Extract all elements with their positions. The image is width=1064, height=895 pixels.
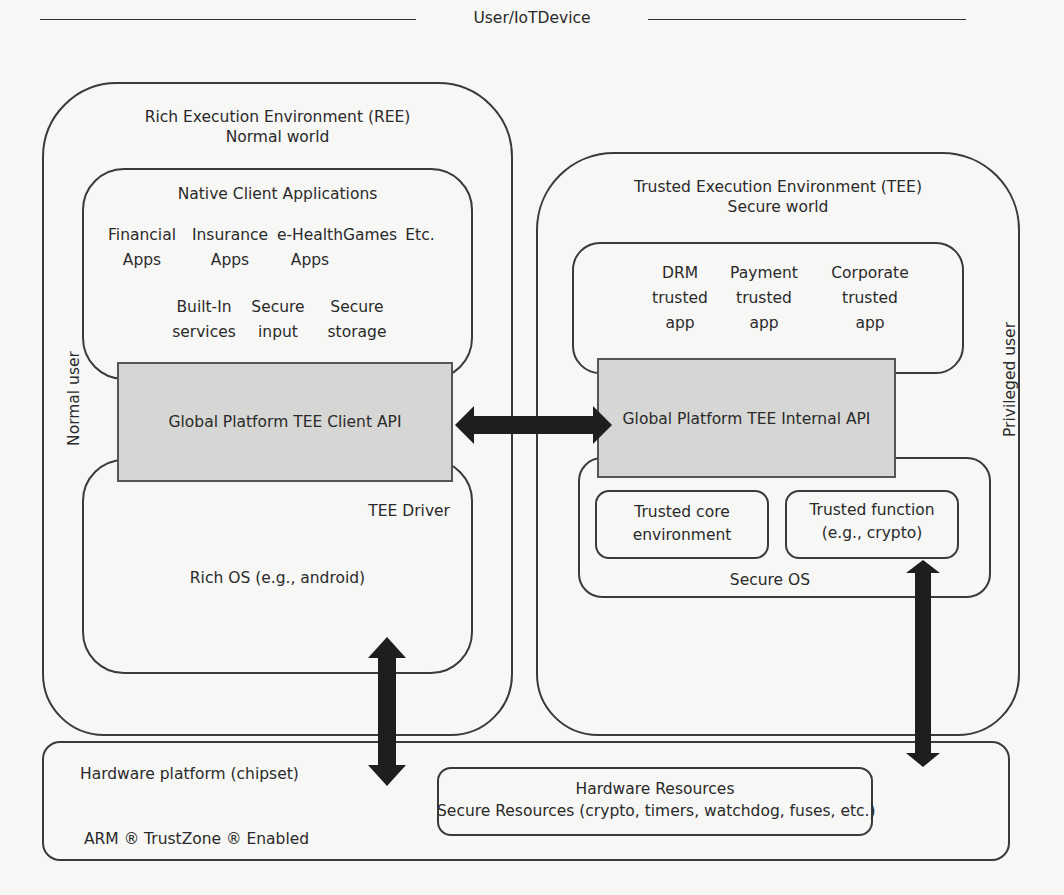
arrows-layer xyxy=(0,0,1064,895)
client-internal-api-arrow xyxy=(455,406,612,444)
function-resources-arrow xyxy=(906,560,940,767)
richos-hardware-arrow xyxy=(368,637,406,786)
